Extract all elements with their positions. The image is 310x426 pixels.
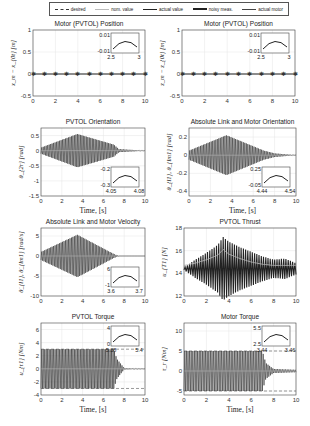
y-tick-label: 0 (36, 366, 40, 372)
y-tick-label: 1 (177, 27, 181, 33)
x-tick-label: 6 (99, 98, 103, 104)
star-marker-icon: ✱ (225, 71, 230, 77)
chart-panel-7: PVTOL Torque02468106420-2-4u_{τ1} [Nm]Ti… (0, 310, 155, 426)
inset-zoom: 0.01-0.012.53 (247, 32, 290, 60)
y-tick-label: -0.4 (177, 188, 188, 194)
x-tick-label: 8 (272, 397, 276, 403)
chart-panel-5: Absolute Link and Motor Velocity02468105… (0, 215, 155, 319)
chart-title: Motor (PVTOL) Position (55, 20, 124, 28)
svg-text:3.7: 3.7 (135, 288, 143, 294)
x-tick-label: 4 (81, 298, 85, 304)
inset-zoom: -0.2-0.34.054.08 (101, 166, 145, 194)
x-tick-label: 2 (205, 298, 209, 304)
star-marker-icon: ✱ (281, 71, 286, 77)
svg-text:4: 4 (107, 325, 110, 331)
svg-text:5.4: 5.4 (135, 347, 143, 353)
legend-item-noisy-meas: noisy meas. (193, 7, 233, 12)
svg-text:3.6: 3.6 (107, 288, 115, 294)
svg-text:2.5: 2.5 (257, 54, 265, 60)
y-tick-label: 4 (36, 340, 40, 346)
star-marker-icon: ✱ (42, 71, 47, 77)
star-marker-icon: ✱ (98, 71, 103, 77)
y-tick-label: 0.5 (172, 49, 181, 55)
y-tick-label: -0.2 (177, 170, 188, 176)
y-axis-label: z_m − z_{0t} [m] (158, 40, 166, 87)
y-tick-label: 0.5 (23, 49, 32, 55)
star-marker-icon: ✱ (75, 71, 80, 77)
x-tick-label: 4 (227, 298, 231, 304)
legend-thick-line-icon (193, 8, 207, 10)
svg-text:0.01: 0.01 (99, 32, 110, 38)
y-axis-label: u_{τ1} [Nm] (17, 342, 25, 375)
chart-title: Motor Torque (221, 313, 260, 321)
x-tick-label: 10 (142, 198, 149, 204)
x-tick-label: 2 (209, 198, 213, 204)
data-series (41, 349, 145, 388)
y-tick-label: 5 (179, 348, 183, 354)
x-axis-label: Time, [s] (79, 405, 106, 414)
x-tick-label: 0 (182, 298, 186, 304)
x-tick-label: 2 (60, 397, 64, 403)
star-marker-icon: ✱ (87, 71, 92, 77)
x-tick-label: 8 (273, 198, 277, 204)
legend-solid-line-icon (143, 9, 157, 10)
star-marker-icon: ✱ (109, 71, 114, 77)
star-marker-icon: ✱ (236, 71, 241, 77)
star-marker-icon: ✱ (120, 71, 125, 77)
x-tick-label: 2 (60, 198, 64, 204)
x-tick-label: 0 (39, 198, 43, 204)
svg-text:3: 3 (137, 54, 140, 60)
x-tick-label: 0 (31, 98, 35, 104)
star-marker-icon: ✱ (202, 71, 207, 77)
x-axis-label: Time, [s] (226, 405, 253, 414)
x-tick-label: 10 (142, 98, 149, 104)
x-tick-label: 2 (54, 98, 58, 104)
x-tick-label: 4 (76, 98, 80, 104)
y-tick-label: -0.5 (29, 163, 40, 169)
y-axis-label: τ_r [Nm] (160, 347, 168, 371)
star-marker-icon: ✱ (191, 71, 196, 77)
y-tick-label: -5 (34, 273, 40, 279)
x-tick-label: 8 (123, 397, 127, 403)
y-tick-label: -1.5 (29, 193, 40, 199)
chart-panel-1: Motor (PVTOL) Position024681010.50-0.5✱✱… (0, 16, 155, 120)
chart-panel-4: Absolute Link and Motor Orientation02468… (155, 115, 310, 219)
chart-title: PVTOL Torque (72, 313, 115, 321)
y-axis-label: θ_{l1}, θ_{lm1} [rad] (165, 133, 173, 191)
legend-thin-line-icon (95, 9, 109, 10)
x-tick-label: 8 (272, 298, 276, 304)
x-tick-label: 6 (102, 397, 106, 403)
x-tick-label: 8 (123, 298, 127, 304)
star-marker-icon: ✱ (270, 71, 275, 77)
svg-text:4.05: 4.05 (106, 188, 117, 194)
y-tick-label: 0 (36, 253, 40, 259)
svg-text:4.44: 4.44 (257, 188, 268, 194)
x-tick-label: 0 (39, 397, 43, 403)
y-axis-label: u_{T1} [N] (160, 247, 168, 277)
y-tick-label: 2 (36, 353, 40, 359)
inset-zoom: 0.25-0.054.444.54 (248, 166, 295, 194)
y-axis-label: θ_{2r} [rad] (17, 145, 25, 179)
y-tick-label: 14 (175, 270, 182, 276)
y-tick-label: -10 (30, 293, 39, 299)
svg-text:0.01: 0.01 (249, 32, 260, 38)
y-tick-label: -1 (34, 178, 40, 184)
y-tick-label: 0 (179, 368, 183, 374)
x-tick-label: 2 (205, 397, 209, 403)
x-axis-label: Time, [s] (79, 206, 106, 215)
x-tick-label: 6 (102, 198, 106, 204)
x-tick-label: 6 (248, 98, 252, 104)
y-tick-label: -4 (34, 392, 40, 398)
y-tick-label: 5 (36, 233, 40, 239)
svg-text:4.54: 4.54 (285, 188, 296, 194)
x-tick-label: 4 (227, 397, 231, 403)
legend-medium-line-icon (242, 9, 256, 10)
chart-title: PVTOL Orientation (66, 118, 121, 125)
legend-item-actual-motor: actual motor (242, 7, 283, 12)
y-tick-label: 0 (184, 152, 188, 158)
data-series (41, 134, 145, 167)
x-axis-label: Time, [s] (229, 206, 256, 215)
y-tick-label: -0.5 (170, 93, 181, 99)
star-marker-icon: ✱ (259, 71, 264, 77)
y-tick-label: 1 (28, 27, 32, 33)
